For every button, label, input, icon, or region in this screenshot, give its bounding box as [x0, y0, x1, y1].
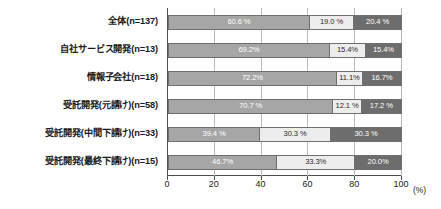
bar-row: 70.7 %12.1 %17.2 %: [168, 99, 402, 114]
bar-segment: 16.7%: [363, 71, 402, 86]
bar-segment-value-label: 16.7%: [371, 74, 392, 82]
bar-segment: 30.3 %: [331, 127, 402, 142]
bar-segment-value-label: 33.3%: [305, 158, 326, 166]
category-label: 受託開発(中間下請け)(n=33): [45, 129, 158, 138]
bar-segment-value-label: 46.7%: [212, 158, 233, 166]
bar-segment-value-label: 30.3 %: [284, 130, 307, 138]
x-axis-unit-label: (%): [413, 186, 426, 194]
bar-segment: 15.4%: [366, 43, 402, 58]
bar-segment-value-label: 30.3 %: [355, 130, 378, 138]
gridline: [307, 8, 308, 176]
bar-segment-value-label: 17.2 %: [370, 102, 393, 110]
bar-segment-value-label: 11.1%: [339, 74, 359, 82]
gridline: [214, 8, 215, 176]
bar-segment-value-label: 19.0 %: [320, 18, 343, 26]
bar-segment: 11.1%: [337, 71, 363, 86]
category-label: 全体(n=137): [108, 17, 158, 26]
bar-segment-value-label: 60.6 %: [227, 18, 250, 26]
bar-segment: 15.4%: [330, 43, 366, 58]
bar-segment-value-label: 39.4 %: [203, 130, 226, 138]
category-label: 受託開発(最終下請け)(n=15): [45, 157, 158, 166]
bar-segment: 39.4 %: [168, 127, 260, 142]
x-tick-label: 20: [209, 180, 219, 189]
bar-segment-value-label: 15.4%: [337, 46, 358, 54]
bar-row: 72.2%11.1%16.7%: [168, 71, 402, 86]
category-label: 受託開発(元請け)(n=58): [63, 101, 158, 110]
bar-segment: 20.0%: [355, 155, 402, 170]
bar-segment: 46.7%: [168, 155, 277, 170]
category-axis-labels: 全体(n=137)自社サービス開発(n=13)情報子会社(n=18)受託開発(元…: [0, 0, 163, 176]
bar-segment: 12.1 %: [333, 99, 361, 114]
stacked-bar-chart: 全体(n=137)自社サービス開発(n=13)情報子会社(n=18)受託開発(元…: [0, 0, 441, 209]
category-label: 自社サービス開発(n=13): [60, 45, 158, 54]
x-tick-label: 0: [164, 180, 169, 189]
x-axis-line: [167, 175, 401, 176]
x-tick-label: 80: [349, 180, 359, 189]
bar-segment: 60.6 %: [168, 15, 310, 30]
bar-segment-value-label: 70.7 %: [239, 102, 262, 110]
bar-segment: 69.2%: [168, 43, 330, 58]
category-label: 情報子会社(n=18): [87, 73, 158, 82]
bar-segment: 20.4 %: [354, 15, 402, 30]
bar-row: 39.4 %30.3 %30.3 %: [168, 127, 402, 142]
bar-segment-value-label: 69.2%: [238, 46, 259, 54]
bar-segment-value-label: 72.2%: [242, 74, 263, 82]
gridline: [261, 8, 262, 176]
bar-segment-value-label: 12.1 %: [336, 102, 359, 110]
bar-segment-value-label: 20.4 %: [366, 18, 389, 26]
x-tick-label: 100: [393, 180, 408, 189]
bar-segment: 19.0 %: [310, 15, 354, 30]
bar-segment-value-label: 15.4%: [373, 46, 394, 54]
bar-segment: 72.2%: [168, 71, 337, 86]
bar-row: 60.6 %19.0 %20.4 %: [168, 15, 402, 30]
gridline: [354, 8, 355, 176]
bar-segment: 33.3%: [277, 155, 355, 170]
bar-row: 46.7%33.3%20.0%: [168, 155, 402, 170]
x-tick-label: 60: [302, 180, 312, 189]
gridline: [401, 8, 402, 176]
bar-segment: 30.3 %: [260, 127, 331, 142]
plot-area: 60.6 %19.0 %20.4 %69.2%15.4%15.4%72.2%11…: [167, 8, 401, 176]
bar-row: 69.2%15.4%15.4%: [168, 43, 402, 58]
bar-segment-value-label: 20.0%: [368, 158, 389, 166]
bar-segment: 70.7 %: [168, 99, 333, 114]
x-tick-label: 40: [256, 180, 266, 189]
bar-segment: 17.2 %: [362, 99, 402, 114]
y-axis-line: [167, 8, 168, 176]
